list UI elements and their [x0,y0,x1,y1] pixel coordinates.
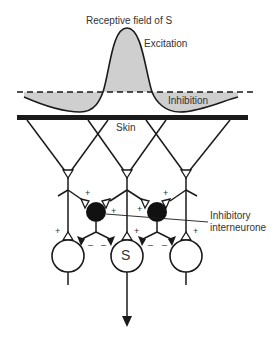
plus-sign: + [55,226,60,237]
output-arrow-icon [122,316,132,327]
title-label: Receptive field of S [86,15,172,26]
interneuron-label-line1: Inhibitory [210,210,251,221]
neuron-left [52,240,84,272]
excitation-label: Excitation [144,38,187,49]
skin-bar [17,115,248,120]
plus-sign: + [85,188,90,199]
minus-sign: – [148,240,153,251]
minus-sign: – [101,240,106,251]
plus-sign: + [193,226,198,237]
plus-sign: + [137,204,142,215]
plus-sign: + [134,226,139,237]
neuron-right [170,240,202,272]
skin-label: Skin [116,122,135,133]
lateral-inhibition-diagram: Receptive field of S Excitation Inhibiti… [0,0,279,339]
minus-sign: – [88,240,93,251]
plus-sign: + [111,206,116,217]
diagram-canvas [0,0,279,339]
neuron-s-label: S [121,248,130,263]
inhibitory-interneuron-left [86,202,106,222]
input-terminals [63,170,191,178]
plus-sign: + [163,188,168,199]
inhibition-label: Inhibition [168,95,208,106]
interneuron-label-line2: interneurone [210,222,266,233]
minus-sign: – [162,240,167,251]
